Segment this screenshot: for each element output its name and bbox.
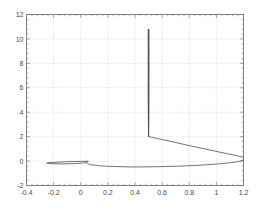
- x-tick-label: -0.4: [20, 189, 32, 196]
- x-tick-label: 1.2: [239, 189, 249, 196]
- y-tick-label: 4: [20, 109, 24, 116]
- x-tick-label: 1: [214, 189, 218, 196]
- y-tick-label: 0: [20, 158, 24, 165]
- x-axis-tick-labels: -0.4-0.200.20.40.60.811.2: [20, 189, 248, 196]
- y-tick-label: 10: [16, 36, 24, 43]
- figure-container: -0.4-0.200.20.40.60.811.2 -2024681012: [0, 0, 256, 211]
- y-tick-label: 2: [20, 133, 24, 140]
- y-tick-label: 6: [20, 84, 24, 91]
- figure-background: [0, 0, 256, 211]
- x-tick-label: 0.6: [157, 189, 167, 196]
- y-tick-label: 8: [20, 60, 24, 67]
- chart-plot: -0.4-0.200.20.40.60.811.2 -2024681012: [0, 0, 256, 211]
- y-tick-label: -2: [17, 182, 23, 189]
- y-tick-label: 12: [16, 11, 24, 18]
- x-tick-label: 0.8: [184, 189, 194, 196]
- x-tick-label: 0: [79, 189, 83, 196]
- x-tick-label: -0.2: [48, 189, 60, 196]
- x-tick-label: 0.2: [103, 189, 113, 196]
- x-tick-label: 0.4: [130, 189, 140, 196]
